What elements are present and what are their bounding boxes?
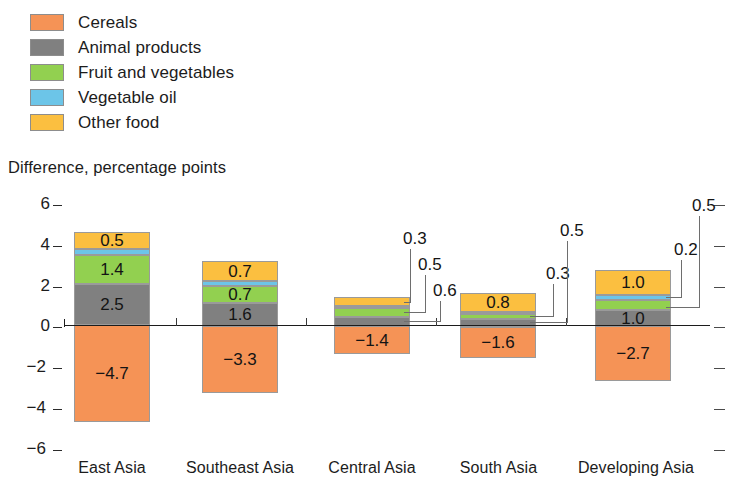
y-tick-mark-minus-2 bbox=[53, 368, 62, 369]
segment-value-other-food-southeast-asia: 0.7 bbox=[228, 263, 252, 280]
bar-east-asia[interactable]: 0.5 1.4 2.5 −4.7 bbox=[74, 232, 150, 422]
plot-area: 6 4 2 0 −2 −4 −6 0.5 1.4 bbox=[0, 0, 731, 483]
x-axis-label-developing-asia: Developing Asia bbox=[562, 459, 710, 477]
callout-label-fruit-and-vegetables-developing-asia: 0.5 bbox=[692, 196, 716, 216]
segment-value-fruit-and-vegetables-east-asia: 1.4 bbox=[100, 261, 124, 278]
stacked-bar-chart: Cereals Animal products Fruit and vegeta… bbox=[0, 0, 731, 483]
y-tick-mark-minus-4 bbox=[53, 409, 62, 410]
segment-animal-products-east-asia[interactable]: 2.5 bbox=[74, 284, 150, 325]
segment-cereals-southeast-asia[interactable]: −3.3 bbox=[202, 326, 278, 393]
x-axis-label-east-asia: East Asia bbox=[52, 459, 172, 477]
segment-value-other-food-south-asia: 0.8 bbox=[486, 294, 510, 311]
x-tick-east-asia bbox=[176, 318, 177, 326]
segment-other-food-southeast-asia[interactable]: 0.7 bbox=[202, 261, 278, 281]
y-tick-mark-0 bbox=[53, 327, 62, 328]
segment-value-fruit-and-vegetables-southeast-asia: 0.7 bbox=[228, 286, 252, 303]
segment-fruit-and-vegetables-central-asia[interactable] bbox=[334, 308, 410, 317]
segment-other-food-central-asia[interactable] bbox=[334, 297, 410, 306]
segment-value-cereals-developing-asia: −2.7 bbox=[616, 345, 650, 362]
y-tick-mark-right-0 bbox=[714, 327, 725, 328]
y-tick-label-4: 4 bbox=[8, 235, 50, 255]
y-tick-mark-4 bbox=[53, 246, 62, 247]
x-axis-label-south-asia: South Asia bbox=[440, 459, 557, 477]
y-tick-mark-right-2 bbox=[714, 287, 725, 288]
segment-value-other-food-east-asia: 0.5 bbox=[100, 232, 124, 249]
zero-baseline bbox=[64, 325, 710, 326]
y-tick-label-2: 2 bbox=[8, 276, 50, 296]
segment-value-cereals-southeast-asia: −3.3 bbox=[223, 351, 257, 368]
y-tick-mark-right-4 bbox=[714, 246, 725, 247]
segment-other-food-south-asia[interactable]: 0.8 bbox=[460, 293, 536, 312]
callout-label-other-food-central-asia: 0.3 bbox=[403, 229, 427, 249]
segment-cereals-east-asia[interactable]: −4.7 bbox=[74, 325, 150, 422]
segment-animal-products-southeast-asia[interactable]: 1.6 bbox=[202, 303, 278, 326]
y-tick-mark-right-minus-6 bbox=[714, 450, 725, 451]
y-tick-mark-right-minus-2 bbox=[714, 368, 725, 369]
segment-cereals-south-asia[interactable]: −1.6 bbox=[460, 327, 536, 358]
y-tick-label-minus-2: −2 bbox=[4, 357, 46, 377]
y-tick-mark-6 bbox=[53, 205, 62, 206]
segment-other-food-east-asia[interactable]: 0.5 bbox=[74, 232, 150, 249]
segment-cereals-developing-asia[interactable]: −2.7 bbox=[595, 326, 671, 381]
segment-cereals-central-asia[interactable]: −1.4 bbox=[334, 326, 410, 354]
segment-other-food-developing-asia[interactable]: 1.0 bbox=[595, 270, 671, 295]
y-tick-label-0: 0 bbox=[8, 316, 50, 336]
y-tick-mark-right-6 bbox=[714, 205, 725, 206]
callout-label-animal-products-south-asia: 0.5 bbox=[560, 221, 584, 241]
segment-value-animal-products-developing-asia: 1.0 bbox=[621, 310, 645, 327]
segment-value-cereals-central-asia: −1.4 bbox=[355, 332, 389, 349]
segment-fruit-and-vegetables-southeast-asia[interactable]: 0.7 bbox=[202, 286, 278, 303]
y-tick-label-6: 6 bbox=[8, 194, 50, 214]
segment-value-animal-products-southeast-asia: 1.6 bbox=[228, 306, 252, 323]
callout-label-fruit-and-vegetables-central-asia: 0.5 bbox=[418, 255, 442, 275]
x-tick-southeast-asia bbox=[306, 318, 307, 326]
y-tick-label-minus-4: −4 bbox=[4, 398, 46, 418]
segment-value-cereals-east-asia: −4.7 bbox=[95, 365, 129, 382]
callout-label-vegetable-oil-developing-asia: 0.2 bbox=[674, 240, 698, 260]
segment-fruit-and-vegetables-east-asia[interactable]: 1.4 bbox=[74, 255, 150, 284]
segment-value-other-food-developing-asia: 1.0 bbox=[621, 274, 645, 291]
x-axis-label-central-asia: Central Asia bbox=[312, 459, 432, 477]
y-tick-mark-right-minus-4 bbox=[714, 409, 725, 410]
y-tick-mark-2 bbox=[53, 287, 62, 288]
x-axis-label-southeast-asia: Southeast Asia bbox=[175, 459, 305, 477]
segment-value-animal-products-east-asia: 2.5 bbox=[100, 296, 124, 313]
x-tick-central-asia bbox=[436, 318, 437, 326]
callout-label-animal-products-central-asia: 0.6 bbox=[433, 281, 457, 301]
y-tick-label-minus-6: −6 bbox=[4, 439, 46, 459]
y-tick-mark-minus-6 bbox=[53, 450, 62, 451]
bar-southeast-asia[interactable]: 0.7 0.7 1.6 −3.3 bbox=[202, 261, 278, 393]
segment-value-cereals-south-asia: −1.6 bbox=[481, 334, 515, 351]
segment-animal-products-developing-asia[interactable]: 1.0 bbox=[595, 310, 671, 326]
